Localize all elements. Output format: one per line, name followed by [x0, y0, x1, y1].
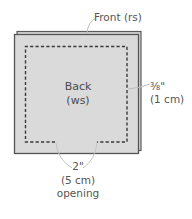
back-ws-label: Back (ws) — [52, 80, 104, 108]
back-label-line2: (ws) — [52, 94, 104, 108]
opening-word: opening — [46, 187, 110, 201]
opening-label: 2" (5 cm) opening — [46, 160, 110, 201]
opening-imperial: 2" — [46, 160, 110, 174]
opening-metric: (5 cm) — [46, 174, 110, 188]
seam-allowance-metric: (1 cm) — [150, 93, 190, 106]
seam-allowance-label: ⅜" (1 cm) — [150, 80, 190, 106]
sewing-diagram: Front (rs) Back (ws) ⅜" (1 cm) 2" (5 cm)… — [0, 0, 192, 219]
back-label-line1: Back — [52, 80, 104, 94]
front-label-text: Front (rs) — [94, 11, 142, 24]
front-rs-label: Front (rs) — [94, 11, 142, 24]
seam-allowance-imperial: ⅜" — [150, 80, 190, 93]
